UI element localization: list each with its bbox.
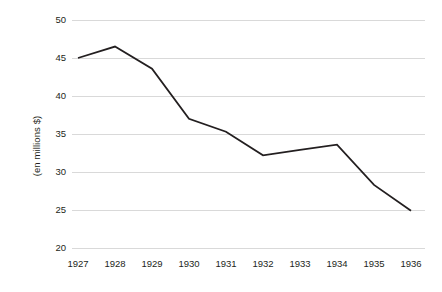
y-axis-tick-label: 30 [40, 167, 66, 177]
x-axis-tick-label: 1934 [320, 258, 354, 269]
line-chart: (en millions $) 20253035404550 192719281… [0, 0, 442, 292]
x-axis-tick-label: 1927 [61, 258, 95, 269]
y-axis-tick-label: 25 [40, 205, 66, 215]
y-axis-tick-label: 50 [40, 15, 66, 25]
series-line-group [72, 20, 425, 248]
y-axis-tick-label: 45 [40, 53, 66, 63]
x-axis-tick-label: 1928 [98, 258, 132, 269]
x-axis-tick-label: 1930 [172, 258, 206, 269]
x-axis-tick-label: 1935 [357, 258, 391, 269]
x-axis-tick-label: 1936 [394, 258, 428, 269]
series-line [78, 47, 411, 211]
y-axis-tick-label: 35 [40, 129, 66, 139]
x-axis-tick-label: 1933 [283, 258, 317, 269]
x-axis-tick-label: 1932 [246, 258, 280, 269]
y-axis-tick-labels: 20253035404550 [36, 0, 66, 292]
y-axis-tick-label: 20 [40, 243, 66, 253]
gridline [72, 248, 425, 249]
x-axis-tick-label: 1929 [135, 258, 169, 269]
y-axis-tick-label: 40 [40, 91, 66, 101]
x-axis-tick-labels: 1927192819291930193119321933193419351936 [72, 258, 425, 274]
plot-area [72, 20, 425, 248]
x-axis-tick-label: 1931 [209, 258, 243, 269]
